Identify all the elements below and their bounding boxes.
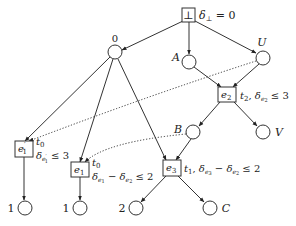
node-A-label: A	[171, 51, 180, 64]
node-V-label: V	[275, 126, 284, 139]
event-e1prime-time: t0	[36, 136, 45, 149]
node-B	[186, 125, 200, 139]
event-e3: e3 t1, δe3 − δe2 ≤ 2	[163, 160, 260, 176]
node-B-label: B	[173, 123, 182, 136]
event-e1: e1 t0 δe1 − δe2 ≤ 2	[71, 157, 153, 184]
event-e1prime-annotation: δe′1 ≤ 3	[36, 150, 69, 164]
node-0-label: 0	[112, 33, 118, 44]
node-0	[108, 45, 122, 59]
event-e2: e2 t2, δe2 ≤ 3	[218, 87, 289, 103]
event-e1prime: e′1 t0 δe′1 ≤ 3	[15, 136, 69, 164]
node-1-left-label: 1	[8, 202, 15, 215]
edge-U-to-e2	[233, 64, 259, 87]
event-e1-annotation: δe1 − δe2 ≤ 2	[92, 171, 153, 184]
root-symbol: ⊥	[183, 9, 193, 22]
node-C-label: C	[222, 202, 231, 215]
event-e1-time: t0	[92, 157, 101, 170]
edge-0-to-e3	[118, 59, 166, 160]
edge-bot-to-0	[122, 21, 183, 50]
root-node: ⊥ δ⊥ = 0	[182, 8, 235, 23]
node-V	[256, 125, 270, 139]
edge-0-to-e1prime	[25, 57, 110, 141]
edge-bot-to-U	[195, 21, 256, 53]
event-e3-annotation: t1, δe3 − δe2 ≤ 2	[184, 163, 260, 176]
node-A	[182, 55, 196, 69]
root-annotation: δ⊥ = 0	[199, 9, 235, 23]
node-1-mid-label: 1	[63, 202, 70, 215]
node-U	[256, 51, 270, 65]
edge-e2-to-V	[234, 102, 257, 126]
node-U-label: U	[257, 36, 267, 49]
dotted-edge-B-to-e1	[85, 134, 186, 162]
edge-B-to-e3	[176, 139, 191, 160]
node-1-mid	[73, 201, 87, 215]
edge-e3-to-C	[178, 176, 204, 202]
event-e2-annotation: t2, δe2 ≤ 3	[240, 90, 289, 103]
edge-0-to-e1	[80, 59, 113, 162]
edge-e2-to-B	[199, 102, 220, 126]
node-C	[203, 201, 217, 215]
event-tree-diagram: ⊥ δ⊥ = 0 0 A U B V 1 1 2 C e2 t2, δe2 ≤ …	[0, 0, 296, 226]
circle-nodes: 0 A U B V 1 1 2 C	[8, 33, 285, 215]
node-1-left	[18, 201, 32, 215]
node-2-label: 2	[119, 202, 126, 215]
node-2	[129, 201, 143, 215]
